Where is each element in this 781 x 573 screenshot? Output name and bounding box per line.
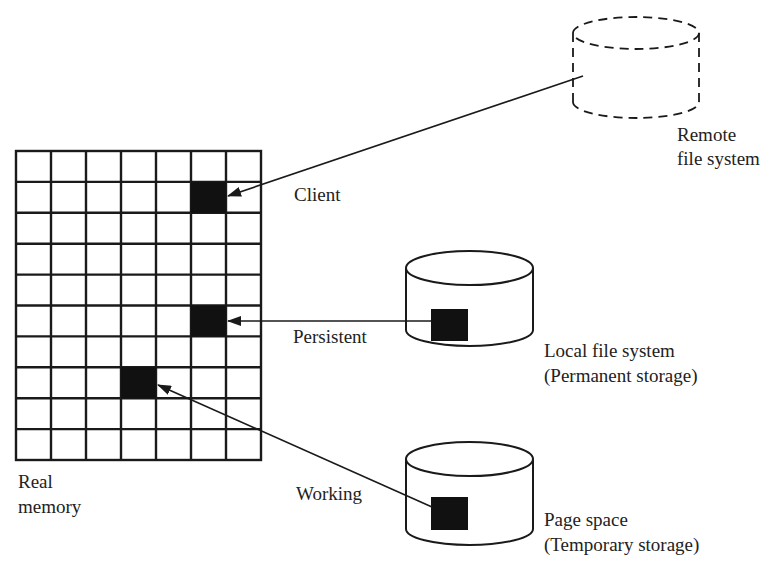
remote-label-line1: Remote — [677, 124, 736, 145]
real-memory-label-line1: Real — [18, 471, 53, 492]
remote-file-system-cylinder — [573, 17, 699, 118]
real-memory-label-line2: memory — [18, 496, 82, 517]
memory-segments-diagram: Real memory Remote file system Local fil… — [0, 0, 781, 573]
page-space-label-line1: Page space — [544, 509, 628, 530]
client-label: Client — [294, 184, 341, 205]
client-arrow — [228, 76, 583, 196]
persistent-page-frame — [191, 306, 226, 337]
working-page-frame — [121, 367, 156, 398]
client-page-frame — [191, 182, 226, 213]
page-space-label-line2: (Temporary storage) — [544, 534, 699, 556]
persistent-label: Persistent — [293, 326, 368, 347]
local-storage-block — [431, 309, 468, 341]
page-space-cylinder — [406, 442, 533, 545]
remote-label-line2: file system — [677, 148, 760, 169]
local-file-system-cylinder — [406, 251, 533, 346]
working-label: Working — [296, 483, 363, 504]
local-label-line1: Local file system — [544, 340, 675, 361]
page-space-block — [431, 497, 468, 530]
local-label-line2: (Permanent storage) — [544, 365, 698, 387]
